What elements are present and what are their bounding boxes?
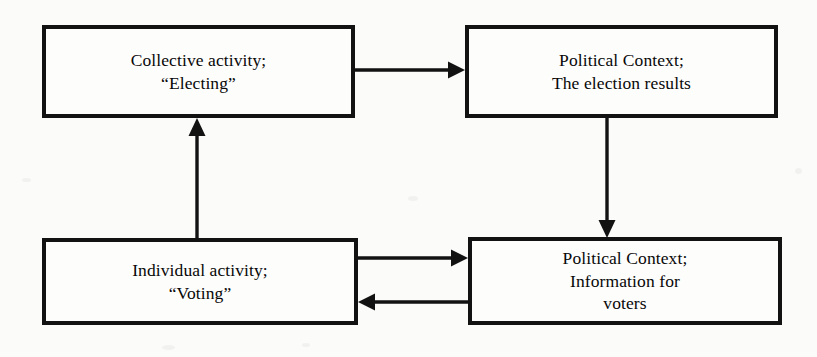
node-collective-activity-label: Collective activity; “Electing” bbox=[125, 49, 273, 95]
arrow-information-to-individual bbox=[358, 294, 468, 311]
arrow-results-to-information bbox=[599, 118, 616, 238]
node-information-for-voters: Political Context; Information for voter… bbox=[468, 237, 782, 325]
scan-speckle bbox=[162, 345, 175, 350]
node-information-for-voters-label: Political Context; Information for voter… bbox=[557, 247, 694, 315]
arrow-individual-to-information bbox=[358, 250, 468, 267]
scan-speckle bbox=[408, 196, 418, 201]
scan-speckle bbox=[22, 178, 31, 182]
node-election-results: Political Context; The election results bbox=[465, 25, 778, 118]
arrow-collective-to-results bbox=[355, 62, 465, 79]
node-election-results-label: Political Context; The election results bbox=[546, 49, 697, 95]
arrow-individual-to-collective bbox=[189, 118, 206, 238]
node-collective-activity: Collective activity; “Electing” bbox=[42, 25, 355, 118]
node-individual-activity: Individual activity; “Voting” bbox=[42, 238, 358, 325]
scan-speckle bbox=[795, 168, 802, 174]
node-individual-activity-label: Individual activity; “Voting” bbox=[126, 259, 274, 305]
flow-diagram: Collective activity; “Electing” Politica… bbox=[0, 0, 817, 357]
scan-speckle bbox=[302, 343, 310, 347]
